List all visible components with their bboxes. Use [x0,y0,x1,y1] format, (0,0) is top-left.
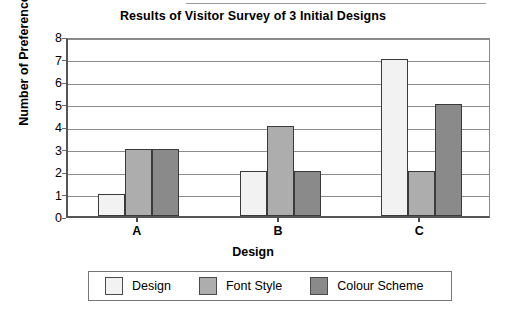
legend-item: Font Style [199,272,282,300]
y-tick-label: 5 [40,99,62,112]
y-tick-label: 3 [40,144,62,157]
bar [240,171,267,216]
x-tick-label: B [258,224,298,238]
x-tick-label: C [399,224,439,238]
y-axis-title: Number of Preferences [17,0,31,137]
bar [125,149,152,217]
bar-chart: Results of Visitor Survey of 3 Initial D… [0,0,506,318]
plot-area [66,38,490,218]
gridline [68,84,489,85]
bar [381,59,408,217]
bar [294,171,321,216]
y-tick-label: 1 [40,189,62,202]
legend-swatch-icon [105,277,123,295]
bar [98,194,125,217]
y-tick-label: 8 [40,32,62,45]
legend-label: Font Style [226,279,282,293]
bar [408,171,435,216]
gridline [68,39,489,40]
gridline [68,106,489,107]
bar [435,104,462,217]
legend-item: Design [105,272,171,300]
bar [152,149,179,217]
y-tick-label: 2 [40,167,62,180]
legend-swatch-icon [199,277,217,295]
legend-item: Colour Scheme [310,272,423,300]
y-tick-label: 0 [40,212,62,225]
y-tick-label: 7 [40,54,62,67]
scan-artifact-line [186,3,486,4]
y-tick-label: 4 [40,122,62,135]
bar [267,126,294,216]
y-axis-ticks: 012345678 [36,38,62,218]
legend-label: Colour Scheme [337,279,423,293]
x-tick-label: A [117,224,157,238]
x-tick-mark [136,218,138,222]
legend-swatch-icon [310,277,328,295]
legend: DesignFont StyleColour Scheme [88,271,452,301]
legend-label: Design [132,279,171,293]
gridline [68,61,489,62]
x-tick-mark [418,218,420,222]
x-tick-mark [277,218,279,222]
chart-title: Results of Visitor Survey of 3 Initial D… [0,9,506,23]
x-axis-title: Design [0,245,506,259]
y-tick-label: 6 [40,77,62,90]
